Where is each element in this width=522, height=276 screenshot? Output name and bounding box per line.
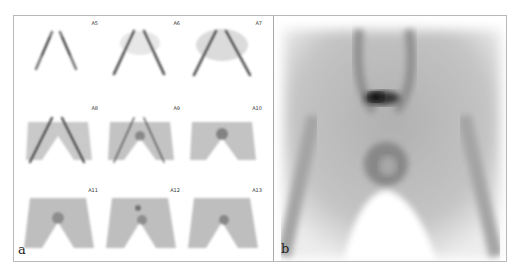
frame-label: A13 [252,187,262,193]
scan-image [22,186,100,252]
scan-image-large [274,16,506,261]
frame-label: A8 [91,105,98,111]
scan-image [186,186,264,252]
scan-image [22,19,100,81]
frame-label: A11 [88,187,98,193]
frame-label: A12 [170,187,180,193]
frame-label: A6 [173,20,180,26]
scan-image [104,19,182,81]
frame-tile: A10 [186,104,264,166]
frame-label: A5 [91,20,98,26]
scan-image [186,19,264,81]
frame-tile: A13 [186,186,264,248]
scan-image [22,104,100,166]
scan-image [104,104,182,166]
frame-tile: A6 [104,19,182,81]
figure-frame: A5 A6 A7 [13,15,507,262]
scan-image [186,104,264,166]
frame-label: A7 [255,20,262,26]
panel-letter-a: a [18,242,26,257]
frame-tile: A12 [104,186,182,248]
scan-image [104,186,182,252]
frame-label: A10 [252,105,262,111]
frame-tile: A8 [22,104,100,166]
frame-tile: A9 [104,104,182,166]
frame-tile: A5 [22,19,100,81]
panel-b-static-scan: b [274,16,506,261]
frame-tile: A7 [186,19,264,81]
panel-letter-b: b [281,241,289,256]
frame-tile: A11 [22,186,100,248]
panel-a-dynamic-frames: A5 A6 A7 [14,16,273,261]
frame-label: A9 [173,105,180,111]
